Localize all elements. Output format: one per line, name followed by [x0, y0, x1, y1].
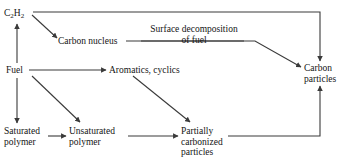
edge-fuel-to-unsaturated-polymer: [32, 76, 80, 122]
node-partially-carbonized-particles: Partially carbonized particles: [181, 126, 223, 158]
node-aromatics-cyclics: Aromatics, cyclics: [109, 65, 180, 76]
edge-label-surface-decomposition: Surface decomposition of fuel: [144, 24, 244, 45]
node-carbon-nucleus: Carbon nucleus: [58, 36, 117, 47]
edge-partially-carbonized-to-carbon-particles: [228, 86, 320, 136]
node-acetylene: C2H2: [4, 8, 24, 21]
soot-formation-diagram: C2H2 Carbon nucleus Fuel Aromatics, cycl…: [0, 0, 347, 165]
edge-aromatics-to-partially-carbonized: [133, 76, 190, 122]
node-fuel: Fuel: [6, 65, 23, 76]
node-saturated-polymer: Saturated polymer: [4, 126, 40, 147]
edge-acetylene-to-carbon-nucleus: [32, 15, 57, 38]
node-unsaturated-polymer: Unsaturated polymer: [69, 126, 115, 147]
node-carbon-particles: Carbon particles: [304, 63, 336, 84]
